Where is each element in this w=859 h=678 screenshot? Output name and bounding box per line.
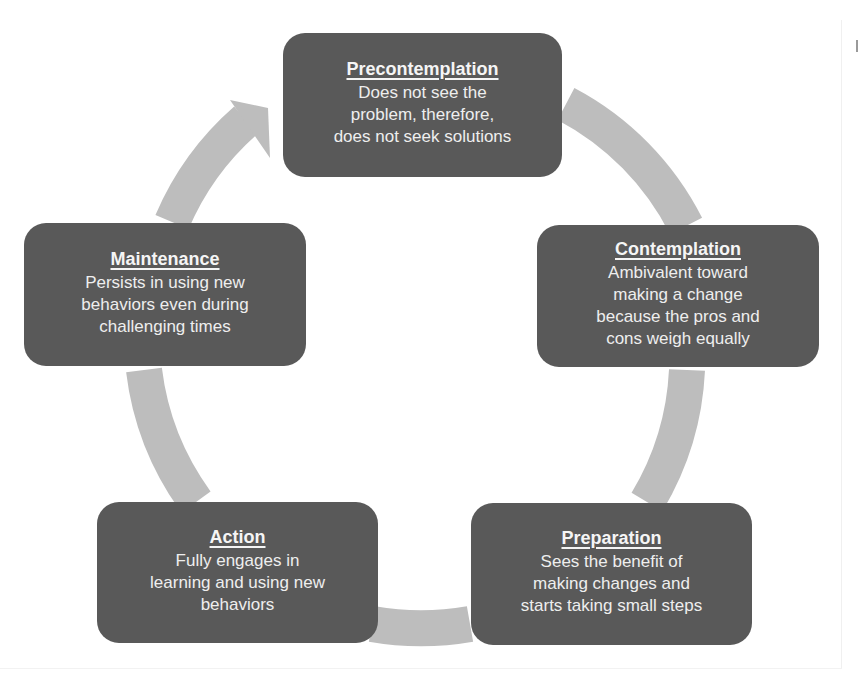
stage-title: Maintenance xyxy=(110,248,219,270)
stage-action: Action Fully engages in learning and usi… xyxy=(97,502,378,643)
stage-title: Contemplation xyxy=(615,238,741,260)
stage-description: Does not see the problem, therefore, doe… xyxy=(334,82,512,148)
stage-description: Persists in using new behaviors even dur… xyxy=(81,272,248,338)
stage-preparation: Preparation Sees the benefit of making c… xyxy=(471,503,752,645)
stage-maintenance: Maintenance Persists in using new behavi… xyxy=(24,223,306,366)
arrow-segment-preparation-to-action xyxy=(372,624,470,628)
stage-description: Sees the benefit of making changes and s… xyxy=(521,551,702,617)
stage-precontemplation: Precontemplation Does not see the proble… xyxy=(283,33,562,177)
arrow-segment-precontemplation-to-contemplation xyxy=(566,104,686,226)
stage-description: Fully engages in learning and using new … xyxy=(150,550,325,616)
stage-contemplation: Contemplation Ambivalent toward making a… xyxy=(537,225,819,367)
arrow-segment-maintenance-to-precontemplation xyxy=(172,120,246,222)
stage-title: Action xyxy=(210,526,266,548)
stage-title: Preparation xyxy=(561,527,661,549)
stage-description: Ambivalent toward making a change becaus… xyxy=(596,262,760,350)
arrow-segment-action-to-maintenance xyxy=(144,370,196,502)
stage-title: Precontemplation xyxy=(346,58,498,80)
arrow-segment-contemplation-to-preparation xyxy=(647,370,687,502)
